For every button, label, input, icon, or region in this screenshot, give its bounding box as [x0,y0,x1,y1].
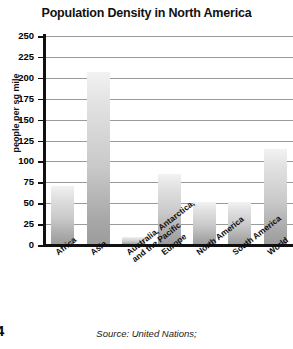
page-number: 4 [0,322,3,339]
y-axis-tick [38,36,44,38]
y-axis-tick-label: 175 [0,94,34,104]
gridline [45,36,293,37]
y-axis-tick-label: 50 [0,198,34,208]
y-axis-tick-label: 150 [0,115,34,125]
y-axis-tick [38,203,44,205]
y-axis-tick [38,224,44,226]
gridline [45,141,293,142]
gridline [45,120,293,121]
y-axis-tick [38,182,44,184]
y-axis-tick-label: 225 [0,52,34,62]
y-axis-tick [38,120,44,122]
y-axis-tick-label: 125 [0,136,34,146]
gridline [45,99,293,100]
y-axis-tick-label: 250 [0,31,34,41]
y-axis-tick [38,78,44,80]
y-axis-tick-label: 75 [0,177,34,187]
y-axis-tick-label: 25 [0,219,34,229]
y-axis-tick [38,141,44,143]
gridline [45,78,293,79]
y-axis-tick [38,99,44,101]
y-axis-tick [38,245,44,247]
chart-plot-area: 0255075100125150175200225250 [0,0,293,260]
y-axis-tick-label: 100 [0,156,34,166]
y-axis-tick [38,161,44,163]
y-axis-tick-label: 200 [0,73,34,83]
y-axis-tick [38,57,44,59]
x-axis-labels: AfricaAsiaAustralia, Antarctica,and the … [0,248,293,328]
gridline [45,161,293,162]
bar [87,72,110,245]
gridline [45,57,293,58]
source-note: Source: United Nations; [0,328,293,339]
